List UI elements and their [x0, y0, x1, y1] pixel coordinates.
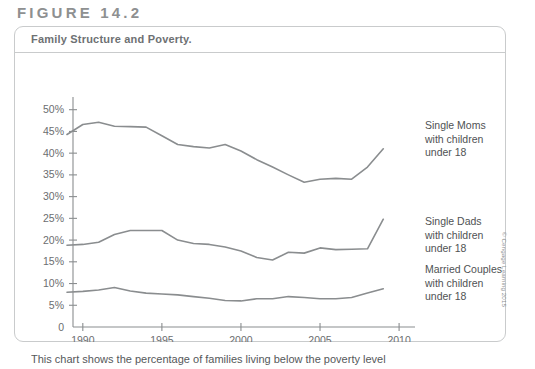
x-axis: 19901995200020052010	[71, 323, 415, 342]
y-tick-label: 30%	[43, 190, 64, 202]
chart-legend: Single Momswith childrenunder 18Single D…	[424, 119, 502, 302]
legend-label-2-line-2: under 18	[425, 290, 467, 302]
x-tick-label: 2005	[308, 334, 332, 342]
y-tick-label: 0	[58, 321, 64, 333]
copyright-notice: © Cengage Learning 2015	[501, 232, 508, 307]
y-tick-label: 25%	[43, 212, 64, 224]
chart-series-lines	[67, 122, 383, 301]
y-tick-label: 40%	[43, 147, 64, 159]
x-tick-label: 1995	[150, 334, 174, 342]
legend-label-0-line-0: Single Moms	[425, 119, 486, 131]
y-tick-label: 45%	[43, 125, 64, 137]
legend-label-2-line-1: with children	[424, 277, 484, 289]
x-tick-label: 2010	[387, 334, 411, 342]
series-line-0	[67, 122, 383, 182]
series-line-1	[67, 219, 383, 260]
figure-card: Family Structure and Poverty. 05%10%15%2…	[14, 26, 506, 342]
series-line-2	[67, 287, 383, 300]
legend-label-1-line-0: Single Dads	[425, 215, 482, 227]
legend-label-0-line-1: with children	[424, 133, 484, 145]
y-tick-label: 15%	[43, 255, 64, 267]
figure-title: Family Structure and Poverty.	[31, 33, 192, 45]
y-tick-label: 5%	[49, 299, 64, 311]
figure-number-label: FIGURE 14.2	[17, 4, 142, 21]
chart-plot-area: 05%10%15%20%25%30%35%40%45%50% 199019952…	[15, 53, 507, 342]
y-tick-label: 50%	[43, 103, 64, 115]
line-chart: 05%10%15%20%25%30%35%40%45%50% 199019952…	[15, 53, 507, 342]
x-tick-label: 1990	[71, 334, 95, 342]
figure-root: FIGURE 14.2 Family Structure and Poverty…	[0, 0, 535, 369]
y-tick-label: 10%	[43, 277, 64, 289]
x-tick-label: 2000	[229, 334, 253, 342]
y-tick-label: 35%	[43, 168, 64, 180]
figure-caption: This chart shows the percentage of famil…	[31, 352, 501, 367]
y-axis: 05%10%15%20%25%30%35%40%45%50%	[43, 97, 77, 333]
legend-label-1-line-2: under 18	[425, 242, 467, 254]
legend-label-1-line-1: with children	[424, 229, 484, 241]
legend-label-0-line-2: under 18	[425, 146, 467, 158]
y-tick-label: 20%	[43, 234, 64, 246]
figure-card-header: Family Structure and Poverty.	[15, 27, 505, 53]
legend-label-2-line-0: Married Couples	[425, 263, 502, 275]
